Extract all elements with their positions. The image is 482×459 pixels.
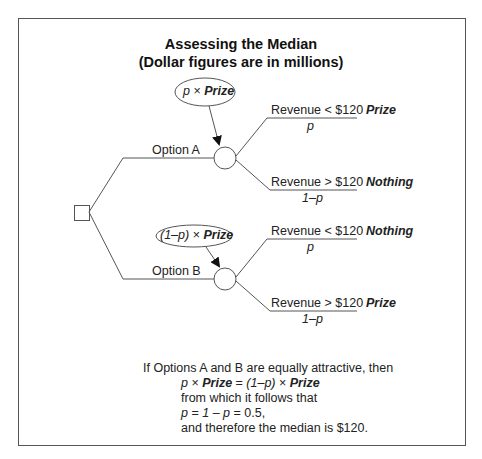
eq-term: p [181, 406, 188, 420]
option-b-label: Option B [152, 264, 201, 278]
outcome-payoff: Prize [366, 296, 396, 310]
outcome-payoff: Nothing [366, 175, 413, 189]
eq-op: × [188, 376, 202, 390]
outcome-condition: Revenue > $120 [271, 175, 363, 189]
times-symbol: × [190, 84, 204, 98]
outcome-probability: 1–p [302, 312, 323, 326]
prize-label: Prize [204, 84, 234, 98]
eq-op: = [232, 376, 246, 390]
times-symbol: × [189, 228, 203, 242]
outcome-payoff: Nothing [366, 224, 413, 238]
eq-op: × [276, 376, 290, 390]
prob-symbol: p [183, 84, 190, 98]
option-b-value-bubble: (1–p) × Prize [160, 228, 233, 242]
prob-symbol: (1–p) [160, 228, 189, 242]
option-a-value-bubble: p × Prize [183, 84, 234, 98]
eq-term: (1–p) [246, 376, 275, 390]
eq-op: = [188, 406, 202, 420]
outcome-probability: p [307, 240, 314, 254]
eq-op: – [209, 406, 223, 420]
conclusion-equation: p × Prize = (1–p) × Prize [181, 376, 320, 390]
eq-term: Prize [202, 376, 232, 390]
eq-term: p [223, 406, 230, 420]
eq-term: p [181, 376, 188, 390]
eq-term: Prize [290, 376, 320, 390]
decision-node-square [75, 206, 90, 221]
outcome-condition: Revenue < $120 [271, 224, 363, 238]
option-a-label: Option A [152, 143, 200, 157]
conclusion-line-5: and therefore the median is $120. [181, 421, 368, 435]
conclusion-line-1: If Options A and B are equally attractiv… [143, 361, 393, 375]
eq-term: = 0.5, [230, 406, 265, 420]
prize-label: Prize [203, 228, 233, 242]
outcome-probability: p [307, 119, 314, 133]
conclusion-probability-equation: p = 1 – p = 0.5, [181, 406, 265, 420]
outcome-probability: 1–p [302, 191, 323, 205]
outcome-condition: Revenue < $120 [271, 103, 363, 117]
outcome-payoff: Prize [366, 103, 396, 117]
outcome-condition: Revenue > $120 [271, 296, 363, 310]
conclusion-line-3: from which it follows that [181, 391, 317, 405]
